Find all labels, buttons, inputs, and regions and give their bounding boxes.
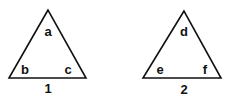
- triangle-2-outline: [143, 11, 221, 78]
- angle-label-e: e: [156, 62, 163, 77]
- angle-label-c: c: [64, 62, 71, 77]
- triangles-diagram: a b c 1 d e f 2: [0, 0, 228, 101]
- triangle-1: a b c 1: [9, 10, 86, 96]
- angle-label-d: d: [180, 24, 188, 39]
- angle-label-a: a: [44, 24, 52, 39]
- triangle-1-number: 1: [44, 81, 51, 96]
- triangle-2-number: 2: [180, 82, 187, 97]
- triangle-2: d e f 2: [143, 11, 221, 97]
- angle-label-f: f: [203, 62, 208, 77]
- angle-label-b: b: [21, 62, 29, 77]
